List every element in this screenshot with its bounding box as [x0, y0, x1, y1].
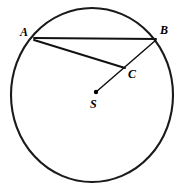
vertex-label-s: S [90, 98, 97, 110]
vertex-label-a: A [20, 26, 28, 38]
center-point-s [94, 90, 98, 94]
segment-sb [96, 40, 156, 92]
segment-ac [34, 40, 125, 68]
geometry-figure: A B C S [0, 0, 181, 190]
segment-ab [34, 38, 156, 39]
vertex-label-c: C [128, 68, 136, 80]
vertex-label-b: B [160, 24, 168, 36]
main-circle [11, 8, 173, 182]
